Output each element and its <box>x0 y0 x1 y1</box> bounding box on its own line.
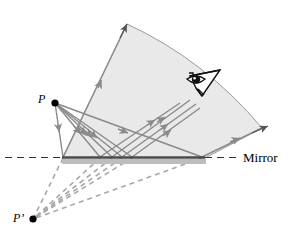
ray-diagram-figure: P P’ Mirror <box>0 0 302 241</box>
virtual-rays <box>33 158 202 219</box>
virtual-ray-1 <box>33 158 100 219</box>
diagram-canvas <box>0 0 302 241</box>
label-image-point: P’ <box>13 211 24 226</box>
mirror-shadow <box>62 159 206 164</box>
source-point-P <box>51 99 58 106</box>
image-point-P-prime <box>29 215 36 222</box>
mirror-surface <box>62 158 206 165</box>
label-mirror: Mirror <box>243 150 278 166</box>
virtual-ray-2 <box>33 158 112 219</box>
label-source-point: P <box>38 92 45 107</box>
virtual-ray-0 <box>33 158 63 219</box>
